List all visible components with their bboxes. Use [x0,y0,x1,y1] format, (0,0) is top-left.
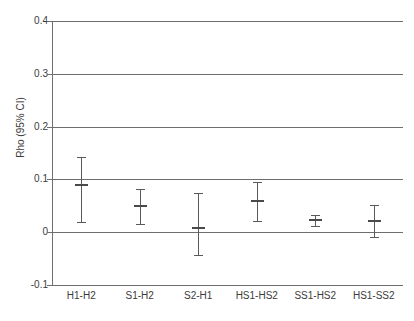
error-bar-cap-upper [253,182,262,183]
error-bar-line [315,215,316,227]
y-axis-tick-label: -0.1 [18,280,48,290]
data-point-marker [75,184,88,186]
error-bar-cap-upper [77,157,86,158]
error-bar-cap-upper [370,205,379,206]
error-bar-cap-lower [370,237,379,238]
error-bar-cap-upper [194,193,203,194]
y-axis-tick-mark [47,127,52,128]
data-point-marker [251,200,264,202]
y-axis-tick-label: 0.1 [18,174,48,184]
y-axis-tick-label: 0.4 [18,16,48,26]
data-point-marker [368,220,381,222]
x-axis-tick-label: HS1-SS2 [339,290,409,301]
y-axis-tick-label: 0.3 [18,69,48,79]
error-bar-cap-lower [311,226,320,227]
error-bar [364,0,384,321]
gridline [52,21,403,22]
data-point-marker [134,205,147,207]
error-bar [188,0,208,321]
data-point-marker [192,227,205,229]
error-bar-cap-lower [77,222,86,223]
error-bar [305,0,325,321]
error-bar-cap-lower [136,224,145,225]
error-bar [247,0,267,321]
error-bar [71,0,91,321]
error-bar-cap-lower [253,221,262,222]
gridline [52,285,403,286]
error-bar [130,0,150,321]
y-axis-tick-labels: 0.40.30.20.10-0.1 [14,0,48,321]
error-bar-chart: Rho (95% CI) 0.40.30.20.10-0.1 H1-H2S1-H… [0,0,414,321]
y-axis-tick-mark [47,232,52,233]
data-point-marker [309,219,322,221]
plot-area [52,21,403,285]
y-axis-tick-mark [47,74,52,75]
error-bar-line [198,193,199,255]
gridline [52,179,403,180]
y-axis-tick-label: 0.2 [18,122,48,132]
y-axis-tick-mark [47,285,52,286]
error-bar-cap-lower [194,255,203,256]
gridline [52,127,403,128]
gridline [52,74,403,75]
error-bar-cap-upper [311,215,320,216]
y-axis-tick-label: 0 [18,227,48,237]
error-bar-line [81,157,82,222]
gridline [52,232,403,233]
error-bar-cap-upper [136,189,145,190]
y-axis-tick-mark [47,21,52,22]
y-axis-tick-mark [47,179,52,180]
